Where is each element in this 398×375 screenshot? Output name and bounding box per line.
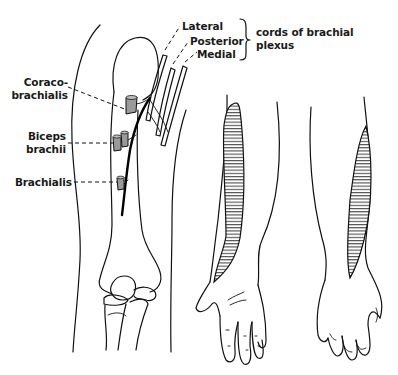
muscle-biceps-brachii <box>113 131 128 151</box>
label-posterior-cord: Posterior <box>190 35 244 47</box>
musculocutaneous-nerve <box>122 98 150 215</box>
label-brachialis: Brachialis <box>10 176 72 188</box>
label-cords-line1: cords of brachial <box>256 26 354 38</box>
muscle-coracobrachialis <box>126 96 137 115</box>
brachial-plexus-cords <box>146 55 187 146</box>
label-coracobrachialis-line1: Coraco- <box>10 76 68 88</box>
label-biceps-line2: brachii <box>10 143 66 155</box>
label-lateral-cord: Lateral <box>182 20 223 32</box>
humerus-bone <box>99 37 161 350</box>
label-coracobrachialis-line2: brachialis <box>10 89 68 101</box>
label-medial-cord: Medial <box>197 48 236 60</box>
forearm-dorsal-outline <box>310 97 382 360</box>
muscle-brachialis <box>117 176 124 190</box>
label-biceps-line1: Biceps <box>10 130 66 142</box>
anatomy-figure: Lateral Posterior Medial cords of brachi… <box>0 0 398 375</box>
label-cords-line2: plexus <box>256 39 294 51</box>
sensory-area-dorsal <box>348 126 371 278</box>
sensory-area-palmar <box>214 103 244 282</box>
